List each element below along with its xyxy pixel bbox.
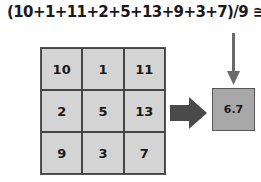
right-arrow-icon <box>170 97 207 129</box>
result-box: 6.7 <box>212 88 255 131</box>
down-arrow-icon <box>227 33 240 85</box>
